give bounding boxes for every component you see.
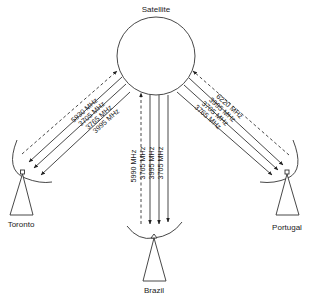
portugal-downlink-line-1 — [189, 78, 283, 165]
brazil-label: Brazil — [144, 286, 164, 295]
brazil-downlink-freq-2: 3995 MHz — [147, 146, 156, 179]
brazil-downlink-freq-3: 3705 MHz — [156, 146, 165, 179]
brazil-uplink-freq: 5990 MHz — [129, 149, 138, 182]
portugal-label: Portugal — [272, 223, 302, 232]
satellite-label: Satellite — [142, 5, 171, 14]
brazil-downlink-freq-1: 3765 MHz — [138, 146, 147, 179]
brazil-tower-icon — [143, 238, 166, 281]
portugal-tower-icon — [276, 174, 299, 215]
toronto-tower-icon — [10, 174, 33, 215]
satellite-icon — [117, 17, 195, 95]
portugal-links — [177, 71, 289, 175]
portugal-downlink-line-2 — [184, 85, 278, 170]
toronto-label: Toronto — [8, 220, 35, 229]
satellite-frequency-diagram: Satellite 5930 MHz 3705 MHz 3765 MHz 399… — [0, 0, 313, 297]
